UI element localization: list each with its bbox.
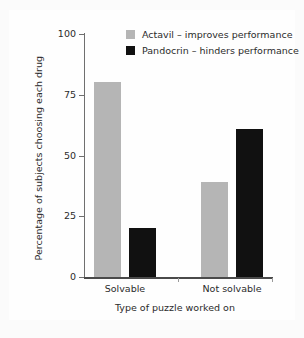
figure: 100 75 50 25 0 Percentage of subjects ch… [0,0,304,338]
legend-swatch-icon-pandocrin [126,46,135,55]
bar-actavil-not-solvable [201,182,228,277]
bar-actavil-solvable [94,82,121,277]
x-tick-label-solvable: Solvable [80,283,170,294]
y-tick-mark-75 [79,95,84,96]
legend-label-actavil: Actavil – improves performance [142,29,293,40]
y-tick-label-100: 100 [36,29,76,39]
x-tick-mark-right [272,278,273,282]
y-axis-label: Percentage of subjects choosing each dru… [33,61,44,261]
legend: Actavil – improves performance Pandocrin… [126,29,299,61]
y-tick-label-0: 0 [36,272,76,282]
legend-item-actavil: Actavil – improves performance [126,29,299,40]
y-tick-mark-100 [79,34,84,35]
legend-label-pandocrin: Pandocrin – hinders performance [142,45,299,56]
bar-pandocrin-not-solvable [236,129,263,277]
x-tick-label-not-solvable: Not solvable [187,283,277,294]
x-tick-mark-center [178,278,179,282]
y-axis-line [84,33,85,278]
legend-swatch-icon-actavil [126,30,135,39]
bar-pandocrin-solvable [129,228,156,277]
x-axis-label: Type of puzzle worked on [60,302,290,313]
y-tick-mark-0 [79,277,84,278]
legend-item-pandocrin: Pandocrin – hinders performance [126,45,299,56]
y-tick-mark-50 [79,156,84,157]
y-tick-mark-25 [79,216,84,217]
